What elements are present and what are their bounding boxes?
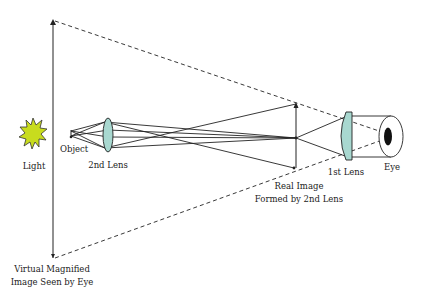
second-lens [103, 118, 113, 152]
eye-label: Eye [384, 161, 400, 173]
real-image-label-line1: Real Image [275, 180, 324, 192]
virtual-image-label-line1: Virtual Magnified [14, 263, 90, 275]
first-lens-label: 1st Lens [328, 166, 364, 178]
first-lens [341, 112, 352, 160]
object-label: Object [60, 143, 88, 155]
light-label: Light [23, 160, 46, 172]
virtual-ray-top [55, 21, 385, 133]
eye-icon [352, 116, 403, 157]
second-lens-label: 2nd Lens [88, 159, 128, 171]
real-image-label-line2: Formed by 2nd Lens [255, 193, 343, 205]
virtual-image-label-line2: Image Seen by Eye [11, 276, 94, 288]
light-icon [19, 118, 47, 149]
